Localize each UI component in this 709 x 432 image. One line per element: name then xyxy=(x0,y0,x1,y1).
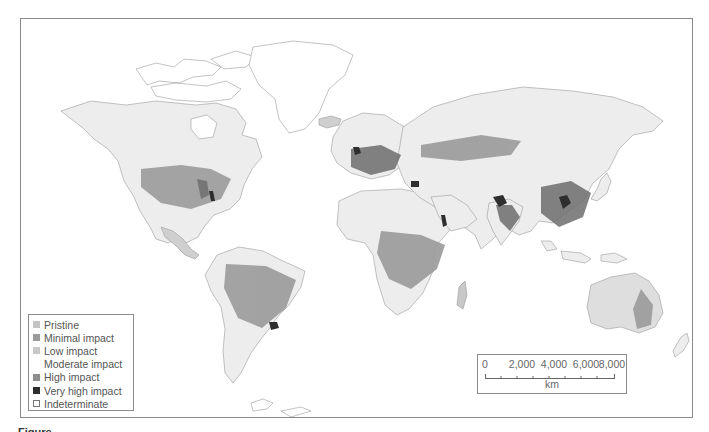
scale-tick-4000: 4,000 xyxy=(541,358,567,370)
swatch-very-high-impact xyxy=(33,387,40,394)
legend-item-pristine: Pristine xyxy=(33,318,129,331)
legend-label: Very high impact xyxy=(44,385,122,397)
legend-item-low-impact: Low impact xyxy=(33,344,129,357)
map-legend: Pristine Minimal impact Low impact Moder… xyxy=(28,314,134,411)
map-frame: Pristine Minimal impact Low impact Moder… xyxy=(20,18,693,418)
scale-unit: km xyxy=(478,378,626,390)
iceland xyxy=(319,116,341,128)
figure-caption: Figure xyxy=(18,425,52,432)
canadian-arctic-islands xyxy=(136,51,256,102)
legend-item-high-impact: High impact xyxy=(33,371,129,384)
madagascar xyxy=(457,281,467,309)
scale-tick-2000: 2,000 xyxy=(509,358,535,370)
swatch-pristine xyxy=(33,321,40,328)
legend-label: Indeterminate xyxy=(44,398,108,410)
legend-label: Moderate impact xyxy=(44,358,122,370)
australia xyxy=(587,273,663,333)
scale-tick-8000: 8,000 xyxy=(599,358,625,370)
legend-item-indeterminate: Indeterminate xyxy=(33,397,129,410)
scale-bar: 0 2,000 4,000 6,000 8,000 km xyxy=(477,354,627,394)
legend-label: Pristine xyxy=(44,319,79,331)
swatch-high-impact xyxy=(33,374,40,381)
scale-tick-6000: 6,000 xyxy=(573,358,599,370)
scale-tick-0: 0 xyxy=(482,358,488,370)
swatch-indeterminate xyxy=(33,400,40,407)
indonesia xyxy=(541,241,627,263)
legend-label: Low impact xyxy=(44,345,97,357)
antarctica-fragment xyxy=(251,399,311,417)
scale-tick-labels: 0 2,000 4,000 6,000 8,000 xyxy=(478,358,626,370)
new-zealand xyxy=(673,333,689,357)
legend-item-moderate-impact: Moderate impact xyxy=(33,358,129,371)
swatch-moderate-impact xyxy=(33,361,40,368)
legend-item-minimal-impact: Minimal impact xyxy=(33,331,129,344)
legend-label: High impact xyxy=(44,371,99,383)
swatch-low-impact xyxy=(33,347,40,354)
legend-item-very-high-impact: Very high impact xyxy=(33,384,129,397)
legend-label: Minimal impact xyxy=(44,332,114,344)
swatch-minimal-impact xyxy=(33,334,40,341)
